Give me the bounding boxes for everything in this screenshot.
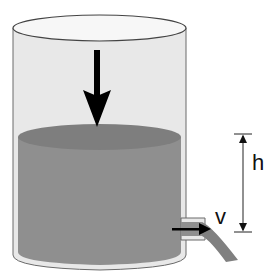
tank-diagram: h v — [0, 0, 275, 278]
height-label: h — [252, 152, 264, 174]
height-dimension — [234, 134, 252, 232]
velocity-label: v — [215, 206, 226, 228]
tank-top-rim — [13, 15, 186, 41]
water-body — [18, 124, 181, 265]
diagram-canvas — [0, 0, 275, 278]
water-surface — [18, 124, 181, 150]
